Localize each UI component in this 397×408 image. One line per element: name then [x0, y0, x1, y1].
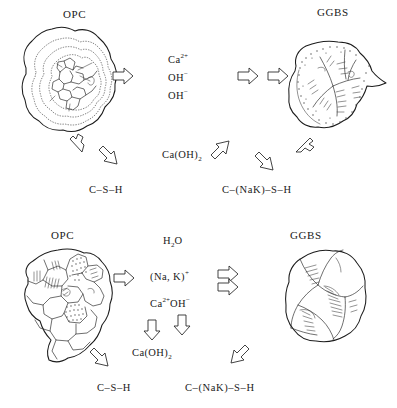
arrow-down-portlandite-1 — [144, 320, 160, 340]
arrow-ions-to-ggbs-top-1 — [238, 68, 258, 84]
species-portlandite-bottom: Ca(OH)2 — [132, 348, 172, 361]
species-water-bottom: H2O — [163, 236, 182, 249]
species-portlandite-top: Ca(OH)2 — [162, 150, 202, 163]
ggbs-particle-bottom — [286, 250, 366, 342]
arrow-into-opc-top — [70, 134, 84, 152]
product-csh-bottom: C–S–H — [97, 383, 131, 394]
species-base-hydroxide: OH — [170, 298, 186, 309]
ggbs-particle-top — [289, 41, 386, 127]
label-ggbs-top: GGBS — [317, 7, 349, 18]
species-charge-hydroxide: − — [186, 296, 190, 304]
species-charge-calcium: 2+ — [162, 296, 169, 304]
arrow-ions-to-ggbs-top-2 — [268, 68, 288, 84]
arrow-opc-to-ions-bottom — [114, 270, 134, 286]
arrow-opc-to-csh-top — [99, 146, 117, 164]
species-alkali-bottom: (Na, K)+ — [150, 270, 189, 282]
species-hydroxide-1-top: OH− — [168, 71, 188, 83]
species-charge: + — [185, 269, 189, 277]
species-base: H — [163, 235, 171, 246]
product-cnaksh-top: C–(NaK)–S–H — [222, 185, 292, 196]
arrow-down-portlandite-2 — [174, 315, 190, 335]
species-base: Ca — [168, 54, 180, 65]
species-charge: − — [184, 70, 188, 78]
arrow-ions-to-ggbs-bottom — [218, 266, 238, 295]
product-csh-top: C–S–H — [89, 185, 123, 196]
species-calcium-hydroxide-ions-bottom: Ca2+OH− — [150, 297, 190, 309]
species-base-calcium: Ca — [150, 298, 162, 309]
species-charge: − — [184, 88, 188, 96]
diagram-canvas: OPC GGBS Ca2+ OH− OH− Ca(OH)2 C–S–H C–(N… — [0, 0, 397, 408]
species-tail: O — [174, 235, 182, 246]
arrow-portlandite-up-top — [211, 141, 229, 159]
species-base: Ca(OH) — [132, 347, 168, 358]
species-subscript: 2 — [168, 353, 172, 361]
opc-particle-bottom — [25, 249, 112, 362]
species-charge: 2+ — [180, 52, 187, 60]
species-base: OH — [168, 90, 184, 101]
species-calcium-ion-top: Ca2+ — [168, 53, 188, 65]
species-hydroxide-2-top: OH− — [168, 89, 188, 101]
arrow-opc-to-csh-bottom — [90, 348, 108, 366]
opc-particle-top — [22, 27, 116, 131]
species-subscript: 2 — [198, 155, 202, 163]
label-opc-top: OPC — [63, 9, 86, 20]
ggbs-top-hatching — [308, 56, 360, 112]
label-ggbs-bottom: GGBS — [290, 230, 322, 241]
species-base: Ca(OH) — [162, 149, 198, 160]
arrow-ggbs-to-cnaksh-bottom — [231, 345, 249, 363]
species-base: OH — [168, 72, 184, 83]
arrow-ggbs-to-cnaksh-top — [255, 152, 273, 170]
product-cnaksh-bottom: C–(NaK)–S–H — [185, 383, 255, 394]
ggbs-bottom-hatching — [302, 265, 357, 331]
diagram-artwork — [0, 0, 397, 408]
arrow-into-ggbs-top — [296, 138, 314, 152]
label-opc-bottom: OPC — [51, 230, 74, 241]
species-base: (Na, K) — [150, 271, 185, 282]
